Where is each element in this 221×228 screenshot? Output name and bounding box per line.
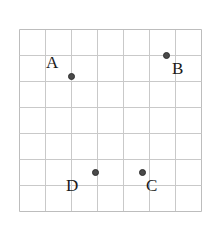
point-label-d: D (66, 177, 78, 194)
point-marker-c (139, 169, 146, 176)
point-label-b: B (172, 60, 183, 77)
point-label-a: A (46, 54, 58, 71)
point-marker-b (163, 52, 170, 59)
grid-lines (0, 0, 221, 228)
point-marker-a (68, 73, 75, 80)
point-marker-d (92, 169, 99, 176)
point-label-c: C (146, 177, 157, 194)
coordinate-grid-figure: ABCD (0, 0, 221, 228)
